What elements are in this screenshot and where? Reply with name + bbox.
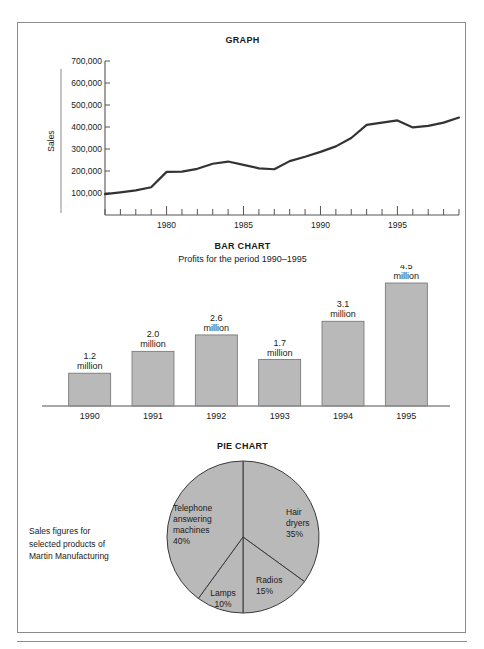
graph-data-line (105, 118, 459, 195)
graph-y-axis-title: Sales (46, 130, 56, 151)
svg-text:700,000: 700,000 (71, 56, 102, 66)
svg-text:300,000: 300,000 (71, 144, 102, 154)
svg-text:million: million (77, 361, 103, 371)
svg-text:Radios: Radios (256, 575, 282, 585)
svg-text:3.1: 3.1 (337, 299, 350, 309)
graph-x-tick-marks (105, 206, 459, 215)
svg-text:1995: 1995 (388, 220, 407, 230)
svg-text:2.0: 2.0 (147, 329, 160, 339)
svg-text:200,000: 200,000 (71, 166, 102, 176)
svg-text:million: million (330, 309, 356, 319)
svg-text:1980: 1980 (157, 220, 176, 230)
svg-text:500,000: 500,000 (71, 100, 102, 110)
svg-text:answering: answering (173, 514, 212, 524)
pie-caption-line-3: Martin Manufacturing (29, 550, 169, 563)
pie-chart-section: PIE CHART Hairdryers35%Radios15%Lamps10%… (18, 441, 467, 631)
svg-text:15%: 15% (256, 586, 273, 596)
bar-chart-category-labels: 199019911992199319941995 (80, 411, 417, 421)
bar-chart-bars (69, 283, 428, 406)
pie-chart-title: PIE CHART (18, 441, 467, 451)
svg-text:10%: 10% (214, 599, 231, 609)
svg-text:Telephone: Telephone (173, 503, 213, 513)
bar-chart-subtitle: Profits for the period 1990–1995 (18, 254, 467, 264)
svg-text:million: million (204, 323, 230, 333)
svg-text:1995: 1995 (396, 411, 416, 421)
pie-caption-line-1: Sales figures for (29, 525, 169, 538)
svg-text:35%: 35% (286, 529, 303, 539)
svg-text:1990: 1990 (80, 411, 100, 421)
svg-text:1994: 1994 (333, 411, 353, 421)
line-graph-section: GRAPH 100,000200,000300,000400,000500,00… (18, 35, 467, 240)
svg-text:machines: machines (173, 525, 209, 535)
svg-text:100,000: 100,000 (71, 188, 102, 198)
svg-text:Hair: Hair (286, 507, 302, 517)
bottom-divider-rule (17, 641, 467, 642)
bar-chart-section: BAR CHART Profits for the period 1990–19… (18, 241, 467, 436)
svg-text:1990: 1990 (311, 220, 330, 230)
pie-caption-line-2: selected products of (29, 538, 169, 551)
graph-x-tick-labels: 1980198519901995 (157, 220, 407, 230)
svg-text:1.7: 1.7 (273, 338, 286, 348)
svg-text:million: million (267, 348, 293, 358)
svg-text:600,000: 600,000 (71, 78, 102, 88)
svg-text:1985: 1985 (234, 220, 253, 230)
svg-text:dryers: dryers (286, 518, 310, 528)
bar-chart-value-labels: 1.2million2.0million2.6million1.7million… (77, 265, 419, 371)
svg-text:400,000: 400,000 (71, 122, 102, 132)
bar-chart: 1.2million2.0million2.6million1.7million… (18, 265, 467, 435)
svg-text:1992: 1992 (206, 411, 226, 421)
svg-text:40%: 40% (173, 536, 190, 546)
page-border-frame: GRAPH 100,000200,000300,000400,000500,00… (17, 22, 466, 633)
svg-text:million: million (140, 339, 166, 349)
graph-y-tick-labels: 100,000200,000300,000400,000500,000600,0… (71, 56, 102, 198)
line-graph: 100,000200,000300,000400,000500,000600,0… (18, 43, 467, 233)
svg-text:1.2: 1.2 (83, 351, 96, 361)
svg-text:million: million (394, 271, 420, 281)
svg-text:2.6: 2.6 (210, 313, 223, 323)
svg-text:1991: 1991 (143, 411, 163, 421)
bar-chart-title: BAR CHART (18, 241, 467, 251)
pie-chart-caption: Sales figures for selected products of M… (29, 525, 169, 563)
graph-y-tick-marks (105, 61, 110, 193)
svg-text:Lamps: Lamps (210, 588, 236, 598)
svg-text:1993: 1993 (270, 411, 290, 421)
